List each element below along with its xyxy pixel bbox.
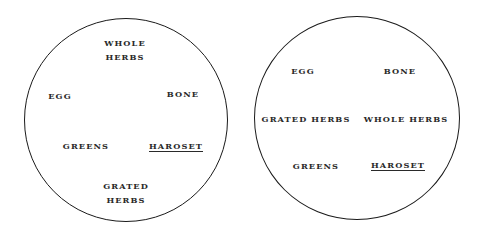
label-whole-herbs-line1: WHOLE <box>104 36 146 50</box>
label-haroset-right: HAROSET <box>371 158 425 172</box>
label-whole-herbs-left: WHOLE HERBS <box>104 36 146 64</box>
label-bone-right: BONE <box>384 64 416 78</box>
label-bone-left: BONE <box>167 87 199 101</box>
label-haroset-left: HAROSET <box>149 139 203 153</box>
label-whole-herbs-line2: HERBS <box>104 50 146 64</box>
label-grated-herbs-left: GRATED HERBS <box>103 179 149 207</box>
label-grated-herbs-line2: HERBS <box>103 193 149 207</box>
label-greens-right: GREENS <box>293 159 339 173</box>
label-whole-herbs-right: WHOLE HERBS <box>364 112 449 126</box>
label-egg-left: EGG <box>48 89 72 103</box>
label-egg-right: EGG <box>291 64 315 78</box>
label-greens-left: GREENS <box>63 139 109 153</box>
label-grated-herbs-right: GRATED HERBS <box>262 112 351 126</box>
label-grated-herbs-line1: GRATED <box>103 179 149 193</box>
